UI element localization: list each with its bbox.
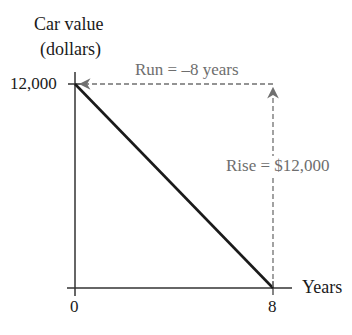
y-axis-label-line1: Car value [34, 14, 103, 35]
value-line [75, 84, 273, 288]
x-axis-label: Years [302, 277, 342, 298]
xtick-0-label: 0 [70, 297, 79, 317]
rise-annotation: Rise = $12,000 [225, 156, 331, 176]
y-axis-label-line2: (dollars) [40, 39, 101, 60]
run-annotation: Run = –8 years [135, 60, 239, 80]
ytick-12000-label: 12,000 [10, 74, 57, 94]
xtick-8-label: 8 [268, 297, 277, 317]
